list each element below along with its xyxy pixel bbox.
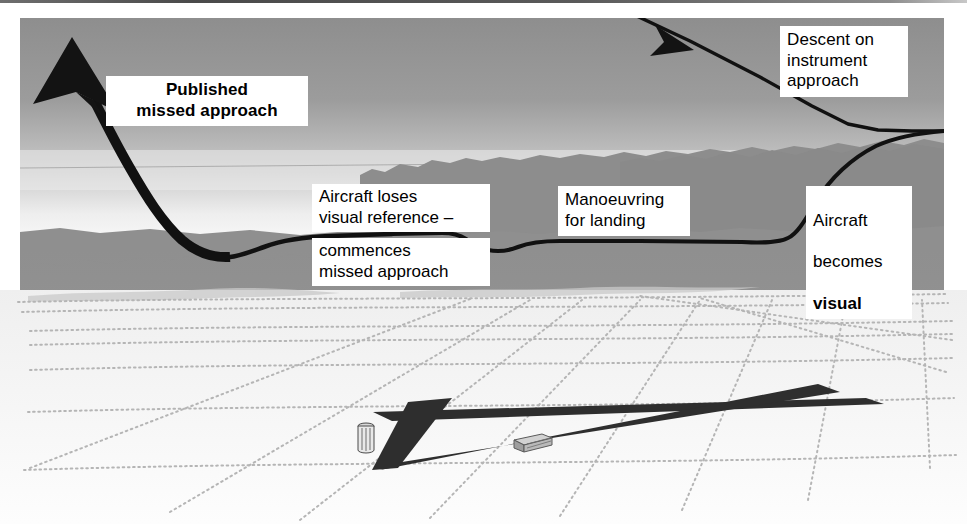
caption-commences-missed-approach: commences missed approach (312, 238, 490, 286)
ground-plane (0, 287, 967, 524)
becomes-visual-line-3: visual (813, 294, 862, 313)
becomes-visual-line-1: Aircraft (813, 211, 868, 230)
caption-loses-visual-reference: Aircraft loses visual reference – (312, 184, 490, 232)
diagram-canvas: Published missed approach Aircraft loses… (0, 0, 967, 524)
caption-descent-on-instrument-approach: Descent on instrument approach (780, 26, 908, 97)
caption-published-missed-approach: Published missed approach (106, 76, 308, 126)
caption-aircraft-becomes-visual: Aircraft becomes visual (806, 186, 912, 319)
becomes-visual-line-2: becomes (813, 252, 883, 271)
storage-tank-icon (358, 423, 374, 453)
caption-manoeuvring-for-landing: Manoeuvring for landing (558, 186, 690, 236)
